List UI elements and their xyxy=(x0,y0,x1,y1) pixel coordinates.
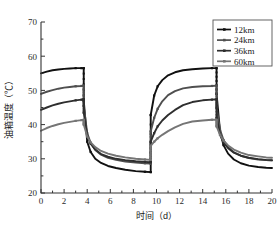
x-tick-label: 2 xyxy=(62,196,67,206)
y-axis-title: 油箱温度（℃） xyxy=(3,76,14,139)
data-point-marker xyxy=(153,132,155,134)
x-axis-title: 时间（d） xyxy=(136,210,177,221)
data-point-marker xyxy=(83,103,85,105)
legend-label-12km: 12km xyxy=(234,25,255,35)
y-tick-labels: 203040506070 xyxy=(28,17,38,198)
data-point-marker xyxy=(75,67,77,69)
x-tick-labels: 02468101214161820 xyxy=(39,196,277,206)
data-point-marker xyxy=(150,145,152,147)
x-tick-label: 6 xyxy=(108,196,113,206)
data-point-marker xyxy=(75,120,77,122)
data-point-marker xyxy=(80,67,82,69)
data-point-marker xyxy=(144,158,146,160)
data-point-marker xyxy=(83,124,85,126)
data-point-marker xyxy=(216,71,218,73)
data-point-marker xyxy=(75,85,77,87)
data-point-marker xyxy=(83,73,85,75)
data-point-marker xyxy=(157,125,159,127)
data-point-marker xyxy=(157,137,159,139)
data-point-marker xyxy=(157,108,159,110)
y-tick-label: 50 xyxy=(28,86,38,96)
data-point-marker xyxy=(216,101,218,103)
data-point-marker xyxy=(211,99,213,101)
data-point-marker xyxy=(211,67,213,69)
data-point-marker xyxy=(86,141,88,143)
x-tick-label: 14 xyxy=(198,196,208,206)
x-tick-label: 20 xyxy=(268,196,278,206)
data-point-marker xyxy=(86,135,88,137)
legend: 12km24km36km60km xyxy=(213,20,272,67)
x-tick-label: 10 xyxy=(152,196,162,206)
data-point-marker xyxy=(80,99,82,101)
data-point-marker xyxy=(150,141,152,143)
data-point-marker xyxy=(83,95,85,97)
data-point-marker xyxy=(216,88,218,90)
data-point-marker xyxy=(83,78,85,80)
data-point-marker xyxy=(83,98,85,100)
data-point-marker xyxy=(153,117,155,119)
data-point-marker xyxy=(144,161,146,163)
data-point-marker xyxy=(150,147,152,149)
data-point-marker xyxy=(150,114,152,116)
legend-marker-12km xyxy=(223,28,226,31)
data-point-marker xyxy=(216,76,218,78)
data-point-marker xyxy=(219,134,221,136)
data-point-marker xyxy=(211,119,213,121)
x-tick-label: 16 xyxy=(221,196,231,206)
data-point-marker xyxy=(83,67,85,69)
data-point-marker xyxy=(150,156,152,158)
y-tick-label: 60 xyxy=(28,52,38,62)
data-point-marker xyxy=(211,85,213,87)
y-tick-label: 20 xyxy=(28,188,38,198)
x-tick-label: 12 xyxy=(175,196,184,206)
data-point-marker xyxy=(75,99,77,101)
data-point-marker xyxy=(216,117,218,119)
data-point-marker xyxy=(150,152,152,154)
chart-figure: 02468101214161820 203040506070 时间（d） 油箱温… xyxy=(0,0,280,232)
data-point-marker xyxy=(150,149,152,151)
data-point-marker xyxy=(216,80,218,82)
data-point-marker xyxy=(150,171,152,173)
data-point-marker xyxy=(222,140,224,142)
data-point-marker xyxy=(90,141,92,143)
legend-marker-60km xyxy=(223,60,226,63)
data-point-marker xyxy=(216,114,218,116)
data-point-marker xyxy=(83,107,85,109)
data-point-marker xyxy=(83,101,85,103)
y-tick-label: 40 xyxy=(28,120,38,130)
data-point-marker xyxy=(216,111,218,113)
data-point-marker xyxy=(150,159,152,161)
legend-label-36km: 36km xyxy=(234,46,255,56)
data-point-marker xyxy=(157,85,159,87)
data-point-marker xyxy=(216,85,218,87)
data-point-marker xyxy=(216,96,218,98)
data-point-marker xyxy=(150,161,152,163)
data-point-marker xyxy=(216,98,218,100)
data-point-marker xyxy=(153,141,155,143)
x-tick-label: 18 xyxy=(244,196,254,206)
data-point-marker xyxy=(83,112,85,114)
data-point-marker xyxy=(80,85,82,87)
legend-marker-36km xyxy=(223,49,226,52)
data-point-marker xyxy=(83,85,85,87)
legend-marker-24km xyxy=(223,39,226,42)
data-point-marker xyxy=(150,154,152,156)
data-point-marker xyxy=(216,92,218,94)
legend-label-24km: 24km xyxy=(234,35,255,45)
x-tick-label: 8 xyxy=(131,196,136,206)
data-point-marker xyxy=(83,88,85,90)
data-point-marker xyxy=(216,125,218,127)
legend-label-60km: 60km xyxy=(234,57,255,67)
data-point-marker xyxy=(90,151,92,153)
x-tick-label: 4 xyxy=(85,196,90,206)
y-tick-label: 30 xyxy=(28,154,38,164)
data-point-marker xyxy=(144,171,146,173)
temperature-line-chart: 02468101214161820 203040506070 时间（d） 油箱温… xyxy=(0,0,280,232)
data-point-marker xyxy=(216,67,218,69)
data-point-marker xyxy=(83,105,85,107)
x-tick-label: 0 xyxy=(39,196,44,206)
data-point-marker xyxy=(153,94,155,96)
data-point-marker xyxy=(216,108,218,110)
data-point-marker xyxy=(80,119,82,121)
data-point-marker xyxy=(83,109,85,111)
